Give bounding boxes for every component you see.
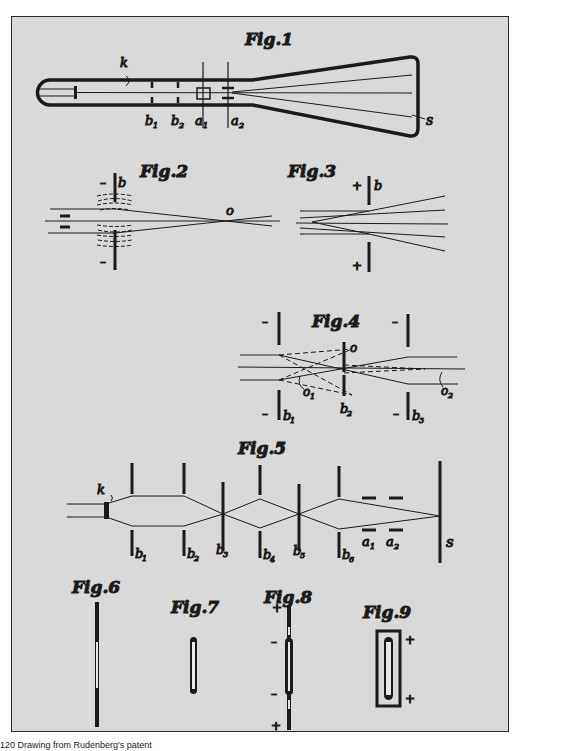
fig5-title: Fig.5 — [237, 438, 286, 458]
fig4-label-o: o — [350, 341, 357, 355]
svg-text:2: 2 — [447, 391, 453, 400]
figure-9: Fig.9 + + — [362, 602, 415, 706]
figure-6: Fig.6 — [71, 577, 120, 727]
fig5-label-s: s — [446, 533, 454, 551]
fig1-label-s: s — [426, 112, 433, 128]
fig3-label-b: b — [374, 178, 382, 193]
svg-text:3: 3 — [419, 416, 424, 425]
fig2-minus-bottom: – — [100, 255, 106, 269]
figure-2: Fig.2 b o — [45, 161, 280, 270]
fig2-minus-top: – — [100, 176, 106, 190]
cathode-k — [74, 86, 77, 99]
svg-text:–: – — [392, 315, 398, 329]
svg-text:2: 2 — [393, 542, 399, 551]
svg-text:2: 2 — [178, 121, 184, 130]
svg-text:5: 5 — [300, 551, 305, 560]
svg-text:–: – — [262, 315, 268, 329]
svg-text:4: 4 — [269, 555, 275, 564]
fig8-plus-bottom: + — [271, 719, 281, 733]
fig3-title: Fig.3 — [287, 161, 336, 181]
fig1-label-k: k — [120, 55, 128, 70]
svg-text:1: 1 — [290, 416, 295, 425]
fig1-label-a1: a — [195, 113, 203, 128]
svg-text:3: 3 — [223, 550, 228, 559]
fig5-label-a1: a — [362, 534, 370, 549]
fig9-title: Fig.9 — [362, 602, 411, 622]
svg-text:1: 1 — [310, 392, 315, 401]
fig1-title: Fig.1 — [244, 29, 293, 49]
figure-4: Fig.4 o — [238, 311, 465, 425]
figure-1: Fig.1 k — [37, 29, 433, 136]
fig8-minus-bottom: – — [271, 687, 277, 701]
svg-text:2: 2 — [346, 409, 352, 418]
figure-5: Fig.5 k — [67, 438, 454, 564]
fig5-label-k: k — [97, 482, 105, 497]
figure-3: Fig.3 b + + — [287, 161, 448, 273]
svg-text:2: 2 — [193, 554, 199, 563]
patent-drawing: Fig.1 k — [0, 0, 577, 751]
fig9-plus-top: + — [405, 633, 415, 647]
fig2-label-o: o — [226, 203, 234, 218]
figure-caption: 120 Drawing from Rudenberg's patent — [0, 740, 152, 750]
svg-text:1: 1 — [203, 121, 208, 130]
fig6-title: Fig.6 — [71, 577, 120, 597]
svg-text:2: 2 — [238, 121, 244, 130]
fig2-title: Fig.2 — [139, 161, 188, 181]
fig2-label-b: b — [118, 175, 126, 190]
figure-7: Fig.7 — [170, 597, 219, 694]
fig1-label-a2: a — [231, 113, 239, 128]
svg-text:1: 1 — [153, 121, 158, 130]
fig5-label-a2: a — [386, 534, 394, 549]
svg-text:6: 6 — [349, 555, 354, 564]
figure-8: Fig.8 + – – + — [263, 587, 312, 733]
fig4-title: Fig.4 — [311, 311, 360, 331]
fig3-plus-bottom: + — [352, 259, 362, 273]
svg-text:–: – — [262, 407, 268, 421]
fig8-minus-top: – — [271, 635, 277, 649]
fig8-plus-top: + — [272, 601, 282, 615]
svg-text:–: – — [393, 407, 399, 421]
svg-text:1: 1 — [370, 542, 375, 551]
fig8-title: Fig.8 — [263, 587, 312, 607]
svg-text:1: 1 — [142, 554, 147, 563]
fig7-title: Fig.7 — [170, 597, 219, 617]
fig9-plus-bottom: + — [405, 692, 415, 706]
fig3-plus-top: + — [352, 179, 362, 193]
